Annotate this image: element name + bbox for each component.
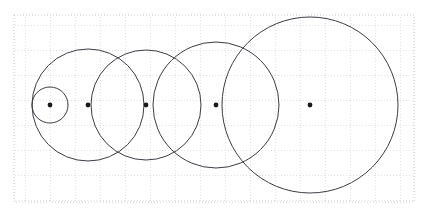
center-5 [308, 103, 313, 108]
figure-canvas [0, 0, 427, 217]
center-1 [48, 103, 53, 108]
grid-background [14, 15, 414, 202]
center-4 [214, 103, 219, 108]
center-2 [86, 103, 91, 108]
circles-diagram [0, 0, 427, 217]
center-3 [144, 103, 149, 108]
grid-layer [14, 15, 414, 202]
